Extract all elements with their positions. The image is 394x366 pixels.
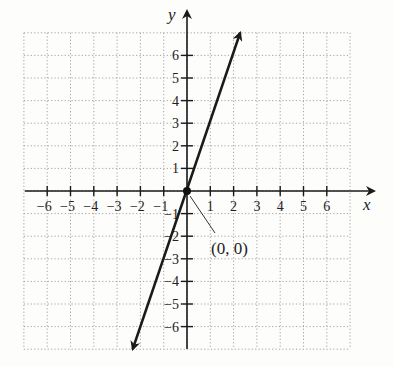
y-tick-label: −5 bbox=[164, 297, 179, 312]
x-tick-label: −3 bbox=[107, 199, 122, 214]
x-tick-label: 3 bbox=[253, 199, 260, 214]
x-tick-label: −4 bbox=[83, 199, 98, 214]
y-axis-label: y bbox=[166, 5, 176, 24]
x-tick-label: 2 bbox=[230, 199, 237, 214]
x-tick-label: −5 bbox=[60, 199, 75, 214]
x-tick-label: 4 bbox=[277, 199, 284, 214]
y-tick-label: 3 bbox=[172, 116, 179, 131]
coordinate-plane: −6−5−4−3−2−1123456−6−5−4−3−2−1123456 x y… bbox=[0, 0, 394, 366]
x-tick-label: 6 bbox=[323, 199, 330, 214]
origin-point bbox=[183, 187, 191, 195]
x-tick-label: 1 bbox=[207, 199, 214, 214]
y-tick-label: 1 bbox=[172, 161, 179, 176]
y-tick-label: 2 bbox=[172, 139, 179, 154]
x-tick-label: −2 bbox=[130, 199, 145, 214]
y-tick-label: −6 bbox=[164, 320, 179, 335]
origin-point-label: (0, 0) bbox=[211, 239, 248, 258]
x-tick-label: −6 bbox=[37, 199, 52, 214]
y-tick-label: 5 bbox=[172, 71, 179, 86]
y-tick-label: 6 bbox=[172, 48, 179, 63]
y-tick-label: 4 bbox=[172, 94, 179, 109]
y-tick-label: −4 bbox=[164, 274, 179, 289]
x-axis-label: x bbox=[362, 195, 371, 214]
x-tick-label: 5 bbox=[300, 199, 307, 214]
